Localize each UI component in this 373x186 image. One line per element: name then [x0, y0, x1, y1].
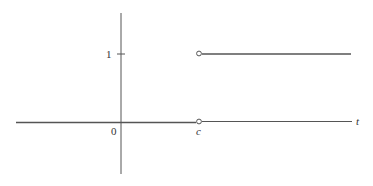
open-circle-upper [197, 51, 202, 56]
step-function-diagram: 1 0 c t [0, 0, 373, 186]
x-axis-label: t [356, 115, 360, 127]
step-point-label: c [196, 125, 201, 137]
open-circle-lower [197, 119, 202, 124]
origin-label: 0 [111, 125, 117, 137]
y-tick-label-one: 1 [106, 48, 112, 60]
